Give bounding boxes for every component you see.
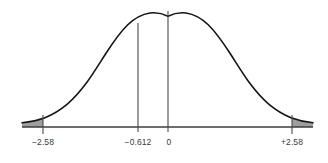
tick-label-center: 0 (167, 137, 172, 147)
tick-label-left-critical: −2.58 (32, 137, 54, 147)
normal-distribution-figure: −2.58 −0.612 0 +2.58 (0, 0, 328, 163)
tick-label-test-statistic: −0.612 (125, 137, 152, 147)
tick-label-right-critical: +2.58 (281, 137, 303, 147)
